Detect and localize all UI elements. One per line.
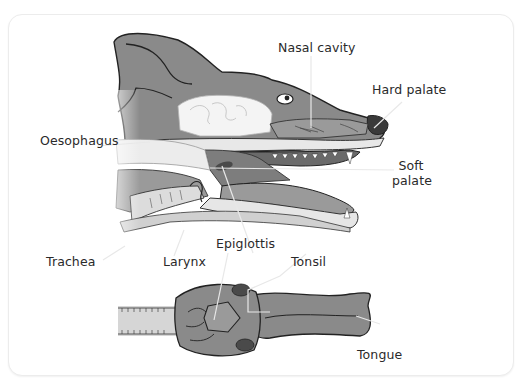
dog-anatomy-illustration <box>0 0 521 384</box>
label-soft-palate-line2: palate <box>392 173 430 188</box>
label-trachea: Trachea <box>46 254 95 269</box>
label-epiglottis: Epiglottis <box>216 236 275 251</box>
label-oesophagus: Oesophagus <box>40 133 119 148</box>
label-soft-palate: Soft palate <box>392 158 430 188</box>
label-tonsil: Tonsil <box>291 254 326 269</box>
brain-region <box>178 95 272 136</box>
label-larynx: Larynx <box>163 254 206 269</box>
tongue-larynx-view <box>118 284 370 356</box>
label-soft-palate-line1: Soft <box>392 158 430 173</box>
label-nasal-cavity: Nasal cavity <box>278 40 356 55</box>
label-tongue: Tongue <box>357 347 402 362</box>
label-hard-palate: Hard palate <box>372 82 446 97</box>
